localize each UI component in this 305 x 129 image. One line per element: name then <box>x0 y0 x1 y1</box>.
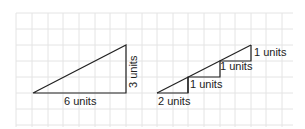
step-label-1: 2 units <box>158 95 191 107</box>
diagram-canvas: 6 units 3 units 2 units 1 units 1 units … <box>0 0 305 129</box>
step-label-2: 1 units <box>190 78 223 90</box>
step-label-4: 1 units <box>254 46 287 58</box>
step-label-3: 1 units <box>220 60 253 72</box>
left-base-label: 6 units <box>64 95 97 107</box>
left-height-label: 3 units <box>127 55 139 88</box>
